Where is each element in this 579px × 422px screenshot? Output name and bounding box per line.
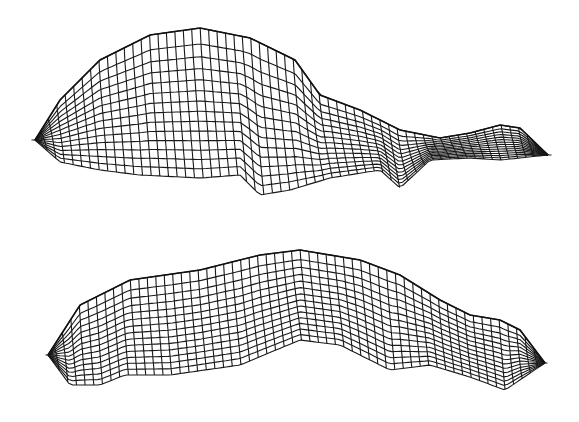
wireframe-mesh-top bbox=[0, 0, 579, 215]
wireframe-view-top bbox=[0, 0, 579, 215]
wireframe-mesh-bottom bbox=[0, 215, 579, 422]
wireframe-view-bottom bbox=[0, 215, 579, 422]
